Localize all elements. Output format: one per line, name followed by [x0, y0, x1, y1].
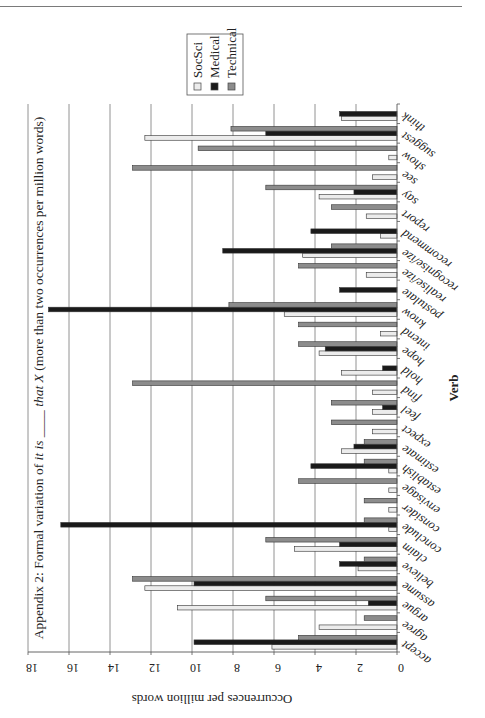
bar-socsci-hold: [342, 371, 397, 376]
title-prefix: Appendix 2: Formal variation of: [31, 460, 46, 639]
title-italic-it-is: it is: [31, 441, 46, 461]
value-tick-label: 16: [67, 661, 79, 675]
bar-medical-establish: [311, 464, 397, 469]
legend-label-medical: Medical: [207, 35, 222, 78]
bar-technical-conclude: [364, 518, 397, 523]
bar-technical-recognise-ize: [331, 244, 397, 249]
bar-medical-say: [354, 190, 397, 195]
bar-medical-recommend: [311, 229, 397, 234]
category-axis-title: Verb: [446, 375, 461, 402]
bar-technical-consider: [364, 498, 397, 503]
bar-technical-accept: [299, 635, 397, 640]
title-blank: ____: [31, 407, 46, 441]
bar-technical-assume: [133, 577, 397, 582]
bar-medical-feel: [383, 405, 397, 410]
bar-medical-hope: [325, 346, 397, 351]
bar-technical-claim: [266, 537, 397, 542]
bars: [49, 111, 398, 649]
category-label: say: [398, 187, 420, 208]
bar-technical-expect: [331, 420, 397, 425]
bar-socsci-argue: [178, 605, 397, 610]
category-label: feel: [398, 403, 421, 425]
bar-medical-conclude: [61, 522, 397, 527]
bar-technical-see: [133, 166, 397, 171]
bar-socsci-accept: [272, 645, 397, 650]
bar-medical-know: [49, 307, 398, 312]
bar-socsci-know: [284, 312, 397, 317]
bar-socsci-report: [366, 214, 397, 219]
bar-medical-recognise-ize: [223, 248, 397, 253]
legend-swatch-medical: [211, 83, 218, 90]
bar-medical-claim: [340, 542, 397, 547]
bar-socsci-consider: [389, 508, 397, 513]
bar-technical-report: [331, 205, 397, 210]
value-tick-label: 4: [316, 661, 322, 675]
bar-socsci-recommend: [381, 234, 397, 239]
bar-medical-assume: [194, 581, 397, 586]
bar-socsci-find: [372, 390, 397, 395]
value-tick-label: 0: [398, 661, 404, 675]
bar-socsci-hope: [319, 351, 397, 356]
legend-swatch-technical: [228, 83, 235, 90]
bar-technical-feel: [331, 400, 397, 405]
bar-medical-hold: [383, 366, 397, 371]
bar-socsci-expect: [372, 429, 397, 434]
bar-technical-say: [266, 185, 397, 190]
bar-technical-argue: [266, 596, 397, 601]
bar-socsci-claim: [295, 547, 398, 552]
bar-socsci-realise-ize: [366, 273, 397, 278]
bar-socsci-recognise-ize: [303, 253, 397, 258]
legend-label-socsci: SocSci: [190, 42, 205, 79]
bar-socsci-see: [372, 175, 397, 180]
bar-technical-hope: [299, 342, 397, 347]
legend-label-technical: Technical: [224, 27, 239, 78]
bar-technical-realise-ize: [299, 263, 397, 268]
bar-socsci-say: [319, 194, 397, 199]
bar-socsci-intend: [381, 331, 397, 336]
bar-socsci-feel: [372, 410, 397, 415]
chart-title: Appendix 2: Formal variation of it is __…: [31, 117, 46, 640]
bar-technical-find: [133, 381, 397, 386]
bar-socsci-suggest: [145, 136, 397, 141]
value-tick-label: 14: [108, 661, 120, 675]
bar-socsci-establish: [389, 468, 397, 473]
value-tick-label: 2: [357, 661, 363, 675]
value-tick-label: 10: [190, 661, 202, 675]
value-tick-label: 18: [26, 661, 38, 675]
bar-technical-agree: [364, 616, 397, 621]
value-axis-ticks: 024681012141618: [26, 652, 404, 675]
bar-socsci-think: [342, 116, 397, 121]
bar-technical-establish: [364, 459, 397, 464]
bar-technical-believe: [364, 557, 397, 562]
bar-technical-intend: [299, 322, 397, 327]
legend: SocSciMedicalTechnical: [187, 27, 243, 95]
bar-medical-accept: [194, 640, 397, 645]
bar-socsci-estimate: [342, 449, 397, 454]
category-label: think: [398, 109, 427, 135]
bar-socsci-believe: [358, 566, 397, 571]
bar-medical-suggest: [266, 131, 397, 136]
bar-medical-postulate: [340, 288, 397, 293]
title-suffix: (more than two occurrences per million w…: [31, 117, 46, 375]
bar-medical-argue: [368, 601, 397, 606]
bar-medical-estimate: [354, 444, 397, 449]
bar-technical-suggest: [231, 126, 397, 131]
bar-medical-think: [340, 111, 397, 116]
bar-socsci-envisage: [389, 488, 397, 493]
value-tick-label: 6: [275, 661, 281, 675]
bar-socsci-assume: [145, 586, 397, 591]
value-axis-title: Occurrences per million words: [132, 692, 293, 707]
title-italic-that-x: that X: [31, 373, 46, 406]
bar-medical-believe: [340, 562, 397, 567]
value-tick-label: 12: [149, 661, 161, 675]
bar-technical-envisage: [299, 479, 397, 484]
bar-socsci-show: [389, 155, 397, 160]
bar-technical-estimate: [364, 440, 397, 445]
bar-socsci-conclude: [389, 527, 397, 532]
value-tick-label: 8: [234, 661, 240, 675]
legend-swatch-socsci: [194, 83, 201, 90]
bar-chart: 024681012141618 acceptagreeargueassumebe…: [0, 0, 485, 718]
bar-technical-show: [198, 146, 397, 151]
bar-socsci-agree: [319, 625, 397, 630]
bar-technical-know: [229, 303, 397, 308]
